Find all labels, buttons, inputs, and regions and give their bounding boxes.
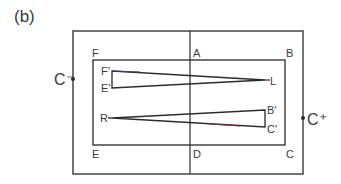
label-R: R [100,112,108,124]
label-c-minus: C⁻ [54,71,74,88]
label-D: D [193,148,201,160]
lower-wedge [112,110,265,127]
inner-frame [93,60,285,145]
outer-frame [73,31,303,174]
c-plus-terminal-dot [301,116,305,120]
label-B-prime: B′ [267,104,276,116]
label-B: B [286,47,293,59]
label-L: L [270,75,276,87]
label-F: F [92,47,99,59]
circuit-diagram: (b) C⁻ C⁺ F A B F′ E′ L R B′ C′ E D C [0,0,341,184]
label-c-plus: C⁺ [307,111,327,128]
label-A: A [193,47,201,59]
label-C-prime: C′ [267,123,277,135]
label-F-prime: F′ [101,65,110,77]
panel-label: (b) [14,7,35,26]
upper-wedge [112,71,265,88]
label-E: E [92,148,99,160]
label-C: C [286,148,294,160]
label-E-prime: E′ [101,82,110,94]
